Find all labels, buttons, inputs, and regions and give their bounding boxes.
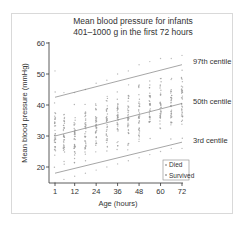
survived-marker-icon bbox=[165, 174, 167, 176]
x-tick-label: 60 bbox=[156, 187, 164, 196]
x-axis-label: Age (hours) bbox=[98, 199, 138, 208]
y-tick-label: 30 bbox=[37, 132, 45, 141]
y-axis-label: Mean blood pressure (mmHg) bbox=[20, 63, 29, 163]
x-tick-label: 72 bbox=[178, 187, 186, 196]
centile-label: 50th centile bbox=[193, 97, 231, 106]
x-tick-label: 48 bbox=[135, 187, 143, 196]
centile-label: 3rd centile bbox=[193, 136, 228, 145]
x-tick-label: 1 bbox=[53, 187, 57, 196]
chart-subtitle: 401–1000 g in the first 72 hours bbox=[73, 27, 193, 37]
x-tick-label: 24 bbox=[92, 187, 100, 196]
centile-labels: 97th centile50th centile3rd centile bbox=[193, 57, 231, 145]
centile-label: 97th centile bbox=[193, 57, 231, 66]
y-tick-label: 20 bbox=[37, 163, 45, 172]
legend-survived: Survived bbox=[169, 172, 195, 179]
chart-title: Mean blood pressure for infants bbox=[73, 16, 193, 26]
legend-died: Died bbox=[169, 161, 183, 168]
x-tick-label: 36 bbox=[113, 187, 121, 196]
y-tick-label: 40 bbox=[37, 101, 45, 110]
centile-line bbox=[55, 65, 182, 98]
y-tick-label: 60 bbox=[37, 39, 45, 48]
legend: Died Survived bbox=[163, 160, 195, 180]
died-marker-icon bbox=[165, 164, 167, 166]
scatter-chart: 20304050601122436486072 Mean blood press… bbox=[0, 0, 244, 226]
x-tick-label: 12 bbox=[71, 187, 79, 196]
y-tick-label: 50 bbox=[37, 70, 45, 79]
